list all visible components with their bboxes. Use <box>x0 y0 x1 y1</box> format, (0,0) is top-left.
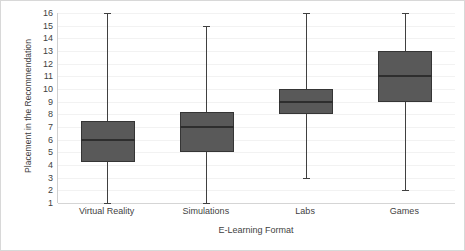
y-axis-tick-label: 16 <box>43 9 53 18</box>
lower-whisker <box>107 162 108 203</box>
box-plot-series[interactable] <box>279 13 333 203</box>
y-axis-tick-label: 7 <box>48 123 53 132</box>
median-line <box>279 101 333 103</box>
y-axis-tick-labels: 16151413121110987654321 <box>27 13 53 203</box>
interquartile-box[interactable] <box>180 112 234 153</box>
lower-whisker-cap <box>402 190 409 191</box>
y-axis-tick-label: 14 <box>43 34 53 43</box>
lower-whisker <box>306 114 307 177</box>
box-plot-series[interactable] <box>180 13 234 203</box>
x-axis-tick-label: Virtual Reality <box>79 206 134 216</box>
y-axis-tick-label: 6 <box>48 135 53 144</box>
y-axis-tick-label: 15 <box>43 21 53 30</box>
y-axis-tick-label: 11 <box>44 72 53 81</box>
x-axis-tick-label: Simulations <box>183 206 230 216</box>
upper-whisker-cap <box>104 13 111 14</box>
upper-whisker <box>107 13 108 121</box>
y-axis-tick-label: 3 <box>48 173 53 182</box>
x-axis-tick-label: Labs <box>295 206 315 216</box>
upper-whisker-cap <box>303 13 310 14</box>
upper-whisker <box>306 13 307 89</box>
y-axis-tick-label: 10 <box>43 85 53 94</box>
upper-whisker <box>206 26 207 112</box>
y-axis-tick-label: 1 <box>48 199 53 208</box>
upper-whisker-cap <box>203 26 210 27</box>
median-line <box>81 139 135 141</box>
lower-whisker-cap <box>203 203 210 204</box>
interquartile-box[interactable] <box>81 121 135 163</box>
y-axis-tick-label: 13 <box>43 47 53 56</box>
upper-whisker <box>405 13 406 51</box>
y-axis-tick-label: 9 <box>48 97 53 106</box>
x-axis-title: E-Learning Format <box>57 225 455 235</box>
box-plot-series[interactable] <box>378 13 432 203</box>
lower-whisker <box>405 102 406 191</box>
upper-whisker-cap <box>402 13 409 14</box>
lower-whisker <box>206 152 207 203</box>
box-plot-series[interactable] <box>81 13 135 203</box>
lower-whisker-cap <box>104 203 111 204</box>
y-axis-tick-label: 4 <box>48 161 53 170</box>
x-axis-tick-labels: Virtual RealitySimulationsLabsGames <box>57 206 455 220</box>
box-plot-chart: Placement in the Recommendation 16151413… <box>0 0 465 251</box>
y-axis-tick-label: 2 <box>48 186 53 195</box>
x-axis-tick-label: Games <box>390 206 419 216</box>
median-line <box>180 126 234 128</box>
lower-whisker-cap <box>303 178 310 179</box>
y-axis-tick-label: 5 <box>48 148 53 157</box>
y-axis-tick-label: 12 <box>43 59 53 68</box>
plot-area <box>57 13 455 203</box>
y-axis-tick-label: 8 <box>48 110 53 119</box>
median-line <box>378 75 432 77</box>
gridline <box>58 203 455 204</box>
